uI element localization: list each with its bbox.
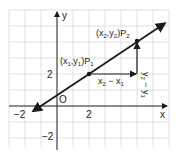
y-tick-neg2: −2 xyxy=(42,131,54,142)
x-tick-2: 2 xyxy=(86,109,92,120)
p2-label: (x2,y2)P2 xyxy=(96,28,130,39)
x-axis-label: x xyxy=(160,109,165,120)
p1-label: (x1,y1)P1 xyxy=(60,56,94,67)
origin-label: O xyxy=(59,94,67,105)
x-tick-neg2: −2 xyxy=(14,109,26,120)
coordinate-diagram: x y O −2 2 2 −2 (x1,y1)P1 (x2,y2)P2 x2 −… xyxy=(0,0,179,163)
y-axis-label: y xyxy=(62,10,67,21)
point-p2 xyxy=(135,39,139,43)
rise-label: y2 − y1 xyxy=(140,72,151,99)
y-tick-2: 2 xyxy=(47,69,53,80)
point-p1 xyxy=(87,72,91,76)
